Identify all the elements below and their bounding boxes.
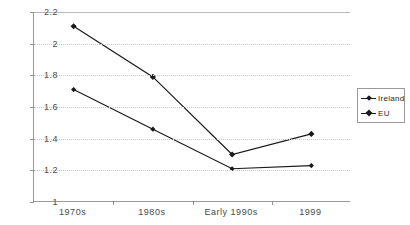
legend-entry-eu[interactable]: EU [361,107,390,119]
series-line-ireland [74,90,312,169]
legend-entry-ireland[interactable]: Ireland [361,92,405,104]
gridline [34,170,350,171]
x-axis-tick [272,201,273,205]
data-point-marker [71,87,76,92]
data-point-marker [71,23,77,29]
x-axis-tick [193,201,194,205]
x-axis-tick-label: Early 1990s [205,207,258,217]
legend-label: Ireland [378,94,405,103]
x-axis-tick-label: 1999 [299,207,321,217]
y-axis-tick-label: 2 [30,39,58,49]
x-axis-tick-label: 1980s [138,207,165,217]
gridline [34,44,350,45]
x-axis-tick [113,201,114,205]
gridline [34,12,350,13]
y-axis-tick-label: 1.2 [30,165,58,175]
legend-marker-icon [361,108,376,118]
legend-marker-icon [361,93,376,103]
gridline [34,139,350,140]
data-point-marker [150,127,155,132]
data-point-marker [308,131,314,137]
y-axis-tick-label: 1.8 [30,70,58,80]
legend-label: EU [378,109,390,118]
x-axis-tick-label: 1970s [59,207,86,217]
series-line-eu [74,26,312,154]
y-axis-tick-label: 2.2 [30,7,58,17]
data-point-marker [309,163,314,168]
chart-title [0,0,410,3]
y-axis-tick-label: 1.4 [30,134,58,144]
gridline [34,107,350,108]
line-chart: 11.21.41.61.822.2 1970s1980sEarly 1990s1… [0,0,410,225]
chart-legend: Ireland EU [357,88,405,123]
plot-area [33,12,350,202]
y-axis-tick-label: 1.6 [30,102,58,112]
y-axis-tick-label: 1 [30,197,58,207]
gridline [34,75,350,76]
